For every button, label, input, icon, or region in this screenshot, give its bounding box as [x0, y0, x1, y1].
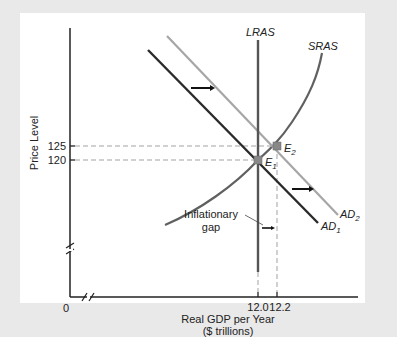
- y-tick-120: 120: [48, 154, 66, 166]
- gap-label-line2: gap: [202, 221, 220, 233]
- e1-label: E1: [265, 156, 277, 171]
- x-tick-12-2: 12.2: [269, 301, 290, 313]
- sras-label: SRAS: [308, 40, 339, 52]
- gap-leader-line: [245, 215, 263, 225]
- e1-point: [254, 156, 262, 164]
- e2-label: E2: [284, 142, 296, 157]
- y-axis-label: Price Level: [28, 116, 40, 170]
- x-tick-12-0: 12.0: [247, 301, 268, 313]
- gap-label-line1: Inflationary: [184, 208, 238, 220]
- sras-curve: [165, 53, 322, 225]
- e2-point: [273, 142, 281, 150]
- ad1-label: AD1: [320, 220, 341, 235]
- x-axis-label-line1: Real GDP per Year: [181, 313, 275, 325]
- ad2-label: AD2: [339, 208, 360, 223]
- origin-label: 0: [63, 302, 69, 314]
- x-axis-label-line2: ($ trillions): [178, 325, 278, 337]
- ad1-line: [148, 50, 318, 223]
- lras-label: LRAS: [246, 26, 275, 38]
- y-tick-125: 125: [48, 140, 66, 152]
